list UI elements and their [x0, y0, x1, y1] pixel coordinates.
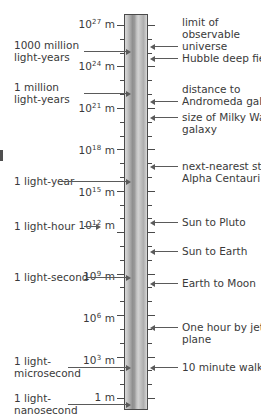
minor-tick-left: [120, 205, 124, 206]
leader-arrowhead-gly-1m: [126, 91, 131, 97]
minor-tick-left: [120, 39, 124, 40]
right-annotation-sun-to-earth: Sun to Earth: [182, 245, 261, 257]
major-tick-left: [117, 398, 124, 399]
right-annotation-line: galaxy: [182, 123, 261, 135]
leader-line-milky-way-size: [154, 117, 178, 118]
leader-arrowhead-earth-to-moon: [150, 281, 155, 287]
left-annotation-line: nanosecond: [14, 404, 78, 416]
right-annotation-line: 10 minute walk: [182, 361, 261, 373]
left-annotation-line: 1000 million: [14, 39, 79, 51]
left-annotation-gly-1m: 1 millionlight-years: [14, 81, 70, 105]
minor-tick-left: [120, 177, 124, 178]
leader-arrowhead-jet-plane-hour: [150, 325, 155, 331]
leader-arrowhead-andromeda-galaxy: [150, 99, 155, 105]
leader-arrowhead-gly-1000m: [126, 49, 131, 55]
right-annotation-hubble-deep-field: Hubble deep field: [182, 52, 261, 64]
right-annotation-alpha-centauri: next-nearest starAlpha Centauri: [182, 160, 261, 184]
right-annotation-line: size of Milky Way: [182, 111, 261, 123]
minor-tick-right: [148, 136, 152, 137]
leader-line-earth-to-moon: [154, 283, 178, 284]
right-annotation-line: distance to: [182, 83, 261, 95]
leader-line-alpha-centauri: [154, 166, 178, 167]
major-tick-right: [148, 25, 155, 26]
left-annotation-line: 1 light-: [14, 392, 78, 404]
scale-label-e18: 1018 m: [79, 144, 115, 156]
right-annotation-andromeda-galaxy: distance toAndromeda galaxy: [182, 83, 261, 107]
minor-tick-left: [120, 218, 124, 219]
scale-label-e15: 1015 m: [79, 186, 115, 198]
right-annotation-earth-to-moon: Earth to Moon: [182, 277, 261, 289]
right-annotation-line: One hour by jet: [182, 321, 261, 333]
logarithmic-scale-column: [124, 14, 148, 410]
right-annotation-jet-plane-hour: One hour by jetplane: [182, 321, 261, 345]
major-tick-left: [117, 357, 124, 358]
major-tick-left: [117, 66, 124, 67]
left-annotation-light-second: 1 light-second: [14, 271, 89, 283]
minor-tick-right: [148, 287, 152, 288]
minor-tick-right: [148, 384, 152, 385]
leader-line-sun-to-earth: [154, 251, 178, 252]
minor-tick-right: [148, 205, 152, 206]
minor-tick-left: [120, 329, 124, 330]
minor-tick-left: [120, 94, 124, 95]
right-annotation-milky-way-size: size of Milky Waygalaxy: [182, 111, 261, 135]
left-annotation-line: light-years: [14, 51, 79, 63]
left-annotation-line: 1 light-second: [14, 271, 89, 283]
major-tick-left: [117, 25, 124, 26]
minor-tick-left: [120, 370, 124, 371]
right-annotation-sun-to-pluto: Sun to Pluto: [182, 216, 261, 228]
major-tick-right: [148, 66, 155, 67]
major-tick-right: [148, 315, 155, 316]
major-tick-left: [117, 149, 124, 150]
major-tick-right: [148, 274, 155, 275]
leader-arrowhead-milky-way-size: [150, 115, 155, 121]
minor-tick-left: [120, 163, 124, 164]
minor-tick-right: [148, 177, 152, 178]
leader-line-light-microsecond: [68, 367, 128, 368]
right-annotation-line: Hubble deep field: [182, 52, 261, 64]
major-tick-left: [117, 232, 124, 233]
scale-label-e24: 1024 m: [79, 60, 115, 72]
left-annotation-gly-1000m: 1000 millionlight-years: [14, 39, 79, 63]
right-annotation-ten-minute-walk: 10 minute walk: [182, 361, 261, 373]
major-tick-right: [148, 191, 155, 192]
leader-line-light-year: [62, 181, 128, 182]
leader-line-light-nanosecond: [68, 404, 128, 405]
left-annotation-line: 1 million: [14, 81, 70, 93]
log-scale-figure: 1027 m1024 m1021 m1018 m1015 m1012 m109 …: [0, 0, 261, 420]
minor-tick-right: [148, 246, 152, 247]
leader-arrowhead-light-year: [126, 179, 131, 185]
left-annotation-light-hour: 1 light-hour: [14, 220, 75, 232]
leader-arrowhead-observable-universe: [150, 44, 155, 50]
right-annotation-line: universe: [182, 40, 261, 52]
minor-tick-right: [148, 39, 152, 40]
right-annotation-line: observable: [182, 28, 261, 40]
minor-tick-right: [148, 94, 152, 95]
leader-line-jet-plane-hour: [154, 327, 178, 328]
minor-tick-left: [120, 136, 124, 137]
minor-tick-right: [148, 122, 152, 123]
right-annotation-line: plane: [182, 333, 261, 345]
major-tick-right: [148, 357, 155, 358]
minor-tick-left: [120, 80, 124, 81]
minor-tick-left: [120, 246, 124, 247]
leader-line-light-second: [86, 277, 128, 278]
leader-arrowhead-alpha-centauri: [150, 164, 155, 170]
leader-line-observable-universe: [154, 46, 178, 47]
cropped-edge-glyph: [0, 150, 3, 161]
minor-tick-right: [148, 53, 152, 54]
leader-line-andromeda-galaxy: [154, 101, 178, 102]
minor-tick-left: [120, 53, 124, 54]
leader-line-light-hour: [84, 226, 96, 227]
right-annotation-observable-universe: limit ofobservableuniverse: [182, 16, 261, 52]
minor-tick-left: [120, 301, 124, 302]
leader-arrowhead-sun-to-earth: [150, 249, 155, 255]
leader-line-gly-1000m: [84, 51, 128, 52]
left-annotation-line: 1 light-: [14, 355, 81, 367]
major-tick-right: [148, 108, 155, 109]
leader-arrowhead-ten-minute-walk: [150, 365, 155, 371]
major-tick-right: [148, 232, 155, 233]
right-annotation-line: Sun to Pluto: [182, 216, 261, 228]
scale-label-e0: 1 m: [94, 391, 115, 403]
minor-tick-left: [120, 122, 124, 123]
